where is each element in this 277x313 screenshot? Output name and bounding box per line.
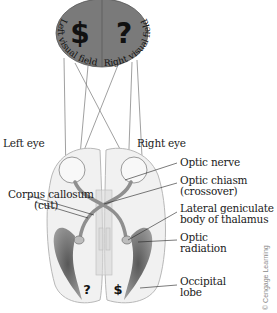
copyright-credit: © Cengage Learning <box>262 245 269 310</box>
eyes <box>59 157 147 183</box>
right-occipital-dollar-symbol: $ <box>113 282 122 297</box>
left-occipital-question-symbol: ? <box>83 282 91 297</box>
optic-chiasm-sublabel: (crossover) <box>180 186 237 197</box>
right-eye-label: Right eye <box>137 138 186 149</box>
occipital-lobe-sublabel: lobe <box>180 287 202 298</box>
right-field-question-symbol: ? <box>116 17 132 50</box>
optic-radiation-sublabel: radiation <box>180 243 226 254</box>
corpus-callosum-sublabel: (cut) <box>34 200 58 211</box>
left-field-dollar-symbol: $ <box>70 17 89 50</box>
lgn-sublabel: body of thalamus <box>180 214 268 225</box>
visual-pathway-diagram: Left visual field Right visual field $ ?… <box>0 0 277 313</box>
left-eye-label: Left eye <box>3 138 44 149</box>
left-eye <box>59 157 85 183</box>
right-eye <box>121 157 147 183</box>
optic-nerve-label: Optic nerve <box>180 157 240 168</box>
